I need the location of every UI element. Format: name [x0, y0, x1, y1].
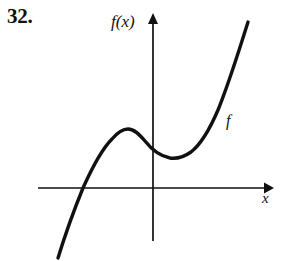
x-axis-label: x [261, 190, 269, 206]
function-graph: f(x) x f [0, 0, 285, 261]
figure-container: 32. f(x) x f [0, 0, 285, 261]
y-axis-label: f(x) [111, 12, 135, 31]
curve-label: f [226, 112, 233, 130]
y-axis-arrowhead [148, 13, 158, 24]
